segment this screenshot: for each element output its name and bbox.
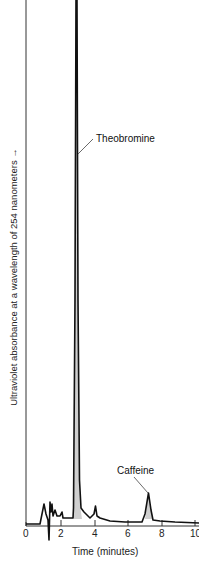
- caffeine-leader-line: [134, 477, 148, 493]
- x-tick-label-6: 6: [125, 528, 131, 539]
- x-tick-label-2: 2: [58, 528, 64, 539]
- x-tick-label-0: 0: [23, 528, 29, 539]
- caffeine-label: Caffeine: [117, 465, 154, 476]
- chromatogram-trace: [26, 0, 199, 540]
- chromatogram-plot: [0, 0, 199, 567]
- y-axis-label: Ultraviolet absorbance at a wavelength o…: [8, 132, 22, 422]
- x-tick-label-10: 10: [190, 528, 199, 539]
- x-tick-label-8: 8: [159, 528, 165, 539]
- theobromine-leader-line: [78, 139, 93, 154]
- x-axis-label: Time (minutes): [72, 546, 138, 557]
- x-tick-label-4: 4: [92, 528, 98, 539]
- theobromine-label: Theobromine: [96, 133, 155, 144]
